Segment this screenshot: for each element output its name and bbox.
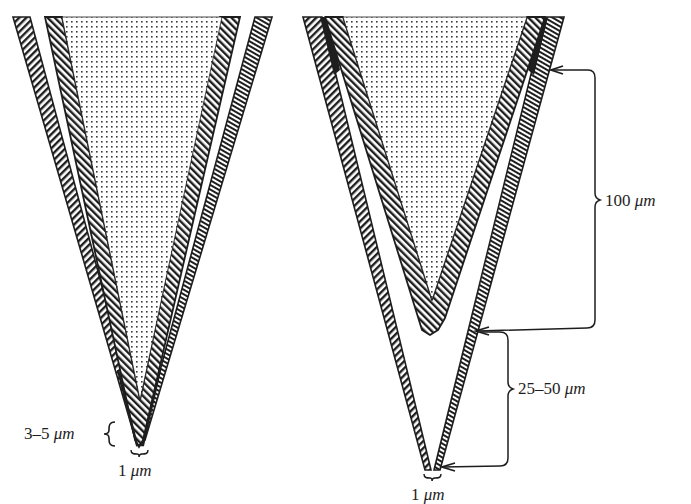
left-length-label: 3–5 μm: [24, 425, 75, 442]
right-upper-value: 100: [605, 191, 631, 210]
left-length-unit: μm: [54, 424, 75, 443]
right-tip-width-unit: μm: [424, 485, 445, 504]
right-upper-dimension-label: 100 μm: [605, 192, 656, 209]
right-lower-unit: μm: [565, 379, 586, 398]
left-probe: [13, 17, 272, 447]
left-length-brace-icon: [104, 422, 115, 446]
right-tip-width-value: 1: [411, 485, 420, 504]
left-tip-width-value: 1: [118, 461, 127, 480]
diagram-canvas: [0, 0, 691, 504]
probe-tip-diagram: 3–5 μm 1 μm 100 μm 25–50 μm 1 μm: [0, 0, 691, 504]
left-tip-width-label: 1 μm: [118, 462, 152, 479]
right-upper-unit: μm: [635, 191, 656, 210]
left-tip-width-unit: μm: [131, 461, 152, 480]
left-length-value: 3–5: [24, 424, 50, 443]
right-tip-width-label: 1 μm: [411, 486, 445, 503]
left-width-brace-icon: [131, 450, 148, 457]
right-lower-dimension-label: 25–50 μm: [518, 380, 586, 397]
right-width-brace-icon: [424, 474, 441, 481]
right-lower-value: 25–50: [518, 379, 561, 398]
right-probe: [303, 17, 564, 470]
